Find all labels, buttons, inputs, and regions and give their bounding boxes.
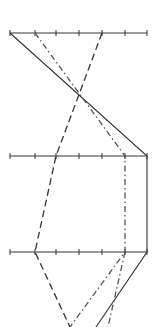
series-dash-dot-2 xyxy=(108,252,125,327)
series-dashed xyxy=(35,33,102,327)
series-solid xyxy=(10,33,147,327)
axes xyxy=(10,30,147,255)
series-lines xyxy=(10,33,147,327)
parallel-coordinates-chart xyxy=(0,0,157,327)
series-dash-dot xyxy=(35,33,125,327)
